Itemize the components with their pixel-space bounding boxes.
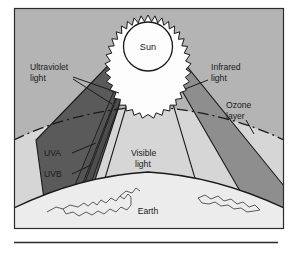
- figure-root: Sun Ultraviolet light Infrared light Ozo…: [0, 0, 293, 255]
- ozone-layer-diagram: Sun Ultraviolet light Infrared light Ozo…: [0, 0, 293, 255]
- ultraviolet-label-line2: light: [30, 73, 46, 83]
- sun-label: Sun: [140, 42, 156, 52]
- ozone-label-line2: layer: [226, 111, 245, 121]
- ultraviolet-label-line1: Ultraviolet: [30, 62, 69, 72]
- infrared-label-line1: Infrared: [211, 62, 241, 72]
- ozone-label-line1: Ozone: [226, 100, 252, 110]
- visible-label-line2: light: [135, 159, 151, 169]
- uva-label: UVA: [44, 148, 61, 158]
- visible-label-line1: Visible: [131, 148, 156, 158]
- infrared-label-line2: light: [211, 73, 227, 83]
- diagram-canvas: Sun Ultraviolet light Infrared light Ozo…: [14, 8, 284, 229]
- earth-label: Earth: [138, 206, 159, 216]
- uvb-label: UVB: [44, 169, 62, 179]
